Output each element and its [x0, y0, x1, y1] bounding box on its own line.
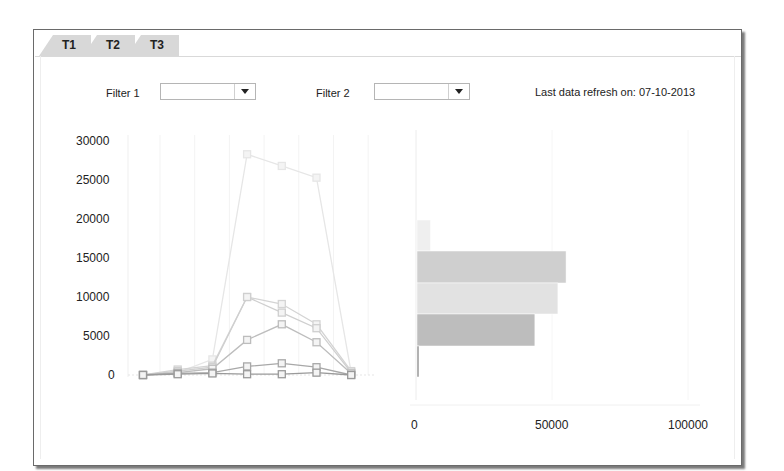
bar — [417, 314, 535, 346]
bar — [417, 283, 558, 314]
bar — [417, 251, 566, 283]
bar — [417, 346, 419, 377]
bar — [417, 220, 431, 251]
bar-chart — [0, 0, 784, 471]
